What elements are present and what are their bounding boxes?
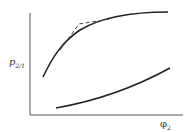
y-label-sub: 2/1 bbox=[15, 62, 25, 69]
x-axis-label: φ2 bbox=[160, 118, 171, 131]
x-label-main: φ bbox=[160, 118, 167, 129]
lower-curve bbox=[56, 68, 170, 108]
dashed-curve bbox=[60, 19, 110, 50]
x-label-sub: 2 bbox=[167, 124, 171, 131]
y-axis-label: p2/1 bbox=[9, 56, 25, 69]
diagram-canvas bbox=[0, 0, 184, 132]
upper-curve bbox=[43, 12, 168, 77]
